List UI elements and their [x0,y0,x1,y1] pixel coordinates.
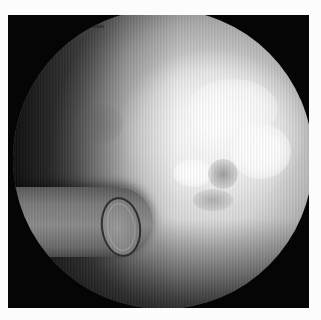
endoscope-field-of-view [13,15,309,308]
reflection-highlight [188,79,278,139]
catheter-lumen [104,201,138,252]
tissue-vessel-detail [208,159,238,189]
catheter-tube [13,187,153,257]
bottom-vignette [13,219,309,308]
reflection-highlight [231,124,291,179]
tissue-vessel-detail [73,104,123,144]
catheter-tip-ring [97,195,145,260]
overlay-label [80,25,104,28]
tissue-vessel-detail [193,189,233,211]
image-frame [8,15,309,308]
reflection-highlight [173,159,213,187]
